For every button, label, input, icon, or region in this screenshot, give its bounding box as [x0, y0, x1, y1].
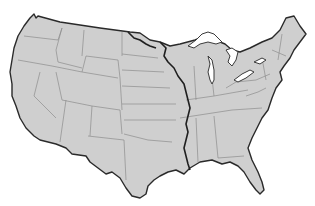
us-map: [0, 0, 315, 206]
us-landmass: [10, 14, 306, 198]
us-map-svg: [0, 0, 315, 206]
